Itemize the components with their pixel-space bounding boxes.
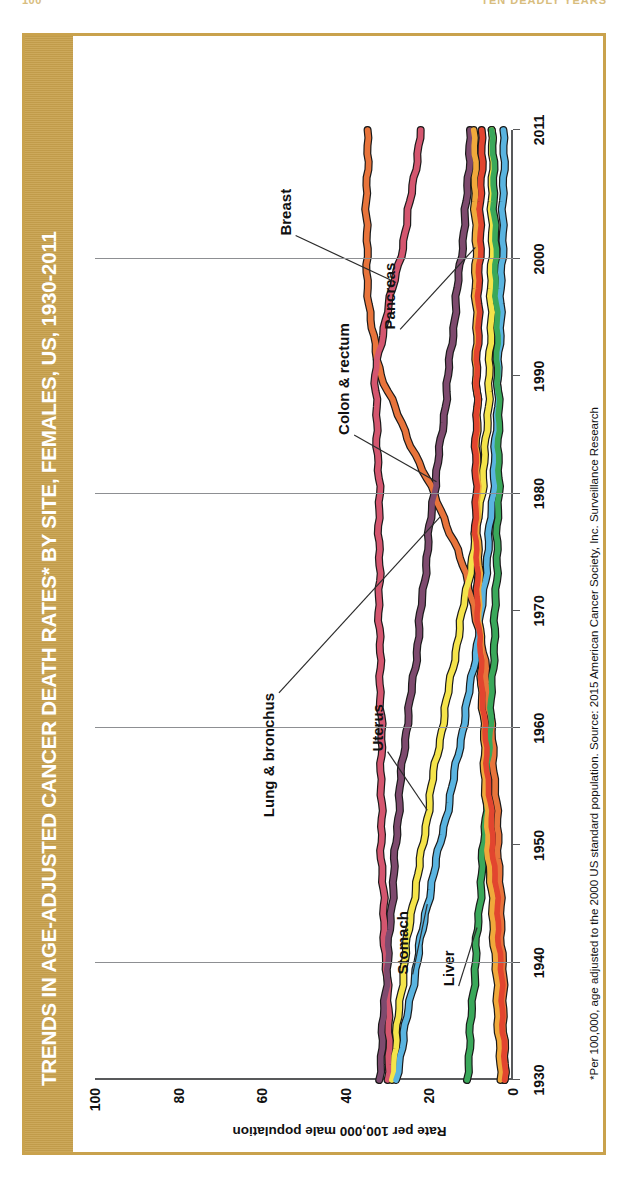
x-tick-mark bbox=[513, 1079, 520, 1080]
series-label: Liver bbox=[440, 950, 457, 986]
figure-footnote: *Per 100,000, age adjusted to the 2000 U… bbox=[588, 407, 600, 1080]
chart-rotation-wrapper: Rate per 100,000 male population 0204060… bbox=[73, 36, 603, 1152]
leader-line bbox=[388, 752, 428, 811]
series-lines: Lung & bronchusBreastColon & rectumPancr… bbox=[95, 130, 513, 1080]
plot-area: Lung & bronchusBreastColon & rectumPancr… bbox=[95, 130, 513, 1080]
y-tick-label: 40 bbox=[338, 1088, 354, 1104]
plot-wrapper: Rate per 100,000 male population 0204060… bbox=[73, 36, 603, 1152]
y-axis-label: Rate per 100,000 male population bbox=[73, 1120, 603, 1142]
x-tick-mark bbox=[513, 375, 520, 376]
series-label: Colon & rectum bbox=[335, 323, 352, 435]
y-tick-label: 60 bbox=[254, 1088, 270, 1104]
leader-line bbox=[400, 247, 475, 329]
running-head: TEN DEADLY YEARS bbox=[481, 0, 607, 6]
series-label: Lung & bronchus bbox=[260, 693, 277, 817]
y-tick-label: 20 bbox=[421, 1088, 437, 1104]
figure-panel: TRENDS IN AGE-ADJUSTED CANCER DEATH RATE… bbox=[22, 33, 606, 1155]
title-band: TRENDS IN AGE-ADJUSTED CANCER DEATH RATE… bbox=[25, 36, 73, 1152]
x-tick-mark bbox=[513, 610, 520, 611]
x-tick-label: 1980 bbox=[531, 478, 547, 509]
grid-line bbox=[95, 962, 513, 963]
series-label: Pancreas bbox=[381, 263, 398, 330]
x-tick-mark bbox=[513, 129, 520, 130]
x-tick-label: 2000 bbox=[531, 243, 547, 274]
page-header: 100 TEN DEADLY YEARS bbox=[0, 0, 629, 12]
x-tick-label: 1970 bbox=[531, 595, 547, 626]
series-label: Breast bbox=[277, 189, 294, 236]
x-tick-mark bbox=[513, 962, 520, 963]
x-tick-label: 1950 bbox=[531, 830, 547, 861]
y-axis-ticks: 020406080100 bbox=[73, 1082, 603, 1122]
x-tick-mark bbox=[513, 727, 520, 728]
x-tick-label: 1940 bbox=[531, 947, 547, 978]
x-tick-mark bbox=[513, 493, 520, 494]
x-tick-mark bbox=[513, 258, 520, 259]
leader-line bbox=[354, 435, 436, 482]
series-label: Stomach bbox=[394, 911, 411, 974]
x-tick-label: 1930 bbox=[531, 1064, 547, 1095]
y-tick-label: 0 bbox=[505, 1088, 521, 1096]
grid-line bbox=[95, 493, 513, 494]
x-tick-label: 2011 bbox=[531, 115, 547, 145]
y-tick-label: 100 bbox=[87, 1088, 103, 1111]
x-tick-label: 1990 bbox=[531, 361, 547, 392]
grid-line bbox=[95, 258, 513, 259]
y-tick-label: 80 bbox=[171, 1088, 187, 1104]
x-tick-mark bbox=[513, 844, 520, 845]
y-axis-label-text: Rate per 100,000 male population bbox=[233, 1123, 447, 1138]
chart-canvas: Rate per 100,000 male population 0204060… bbox=[73, 36, 603, 1152]
grid-line bbox=[95, 727, 513, 728]
x-tick-label: 1960 bbox=[531, 713, 547, 744]
figure-title: TRENDS IN AGE-ADJUSTED CANCER DEATH RATE… bbox=[25, 0, 73, 1094]
